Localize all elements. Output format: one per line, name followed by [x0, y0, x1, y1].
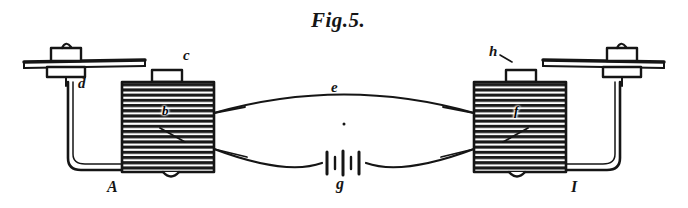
right-coil-body — [474, 82, 566, 172]
right-assembly-group — [441, 44, 664, 177]
left-assembly-group — [24, 44, 247, 177]
upper-connecting-wire — [214, 95, 474, 114]
left-pole-tab-top — [152, 70, 182, 82]
label-battery: g — [336, 176, 344, 192]
battery-symbol — [327, 151, 359, 175]
label-assembly-left: A — [107, 179, 118, 195]
label-coil-right: f — [514, 104, 518, 117]
right-pole-tab-top — [506, 70, 536, 82]
right-bar-leader — [500, 55, 512, 62]
label-armature-bar-left: c — [183, 48, 190, 63]
left-coil-body — [122, 82, 214, 172]
label-binding-post-left: d — [78, 76, 86, 91]
figure-canvas: Fig.5. c d b f h e g A I — [0, 0, 688, 208]
center-ink-dot — [343, 123, 346, 126]
figure-title: Fig.5. — [311, 10, 365, 31]
label-assembly-right: I — [571, 179, 577, 195]
left-pole-tab-bottom — [163, 172, 179, 177]
label-coil-left: b — [162, 104, 169, 117]
label-connecting-wire: e — [331, 80, 338, 95]
label-armature-bar-right: h — [489, 44, 497, 59]
right-pole-tab-bottom — [509, 172, 525, 177]
right-binding-post — [603, 44, 641, 86]
